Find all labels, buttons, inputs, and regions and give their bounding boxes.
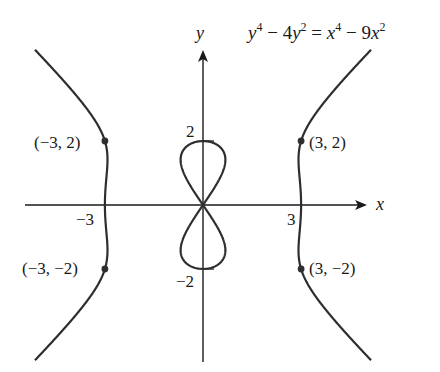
y-axis-label: y <box>196 24 204 42</box>
x-axis-label: x <box>376 195 384 213</box>
x-tick-label-3: 3 <box>287 211 296 228</box>
point-dot <box>102 266 109 273</box>
point-dot <box>298 138 305 145</box>
point-label-neg3-neg2: (−3, −2) <box>22 260 78 277</box>
point-dot <box>102 138 109 145</box>
point-label-3-2: (3, 2) <box>309 134 346 151</box>
y-tick-label-2: 2 <box>186 123 195 140</box>
y-tick-label-neg2: −2 <box>176 273 194 290</box>
point-label-neg3-2: (−3, 2) <box>34 134 80 151</box>
curve-plot <box>0 0 440 372</box>
point-label-3-neg2: (3, −2) <box>309 260 355 277</box>
equation-label: y4 − 4y2 = x4 − 9x2 <box>248 22 385 44</box>
x-tick-label-neg3: −3 <box>76 211 94 228</box>
point-dot <box>298 266 305 273</box>
